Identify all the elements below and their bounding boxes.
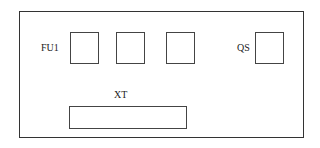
fuse-box-3	[166, 32, 195, 64]
terminal-label: XT	[114, 90, 127, 100]
terminal-block-box	[69, 106, 187, 129]
switch-label: QS	[237, 43, 250, 53]
fuse-box-1	[70, 32, 99, 64]
fuse-label: FU1	[41, 43, 59, 53]
fuse-box-2	[116, 32, 145, 64]
switch-box	[255, 32, 284, 64]
